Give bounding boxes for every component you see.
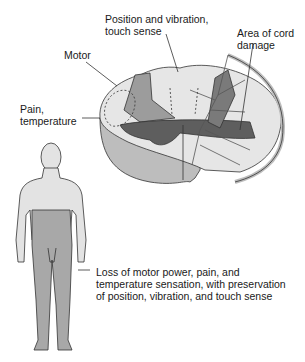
spinal-cord-section: [100, 55, 283, 183]
label-pain-temperature: Pain, temperature: [20, 103, 77, 127]
label-area-cord-damage: Area of cord damage: [237, 27, 294, 51]
label-loss-description: Loss of motor power, pain, and temperatu…: [96, 266, 286, 302]
diagram-canvas: [0, 0, 305, 362]
label-motor: Motor: [64, 49, 91, 61]
label-position-vibration: Position and vibration, touch sense: [105, 13, 208, 37]
human-figure: [16, 143, 86, 350]
